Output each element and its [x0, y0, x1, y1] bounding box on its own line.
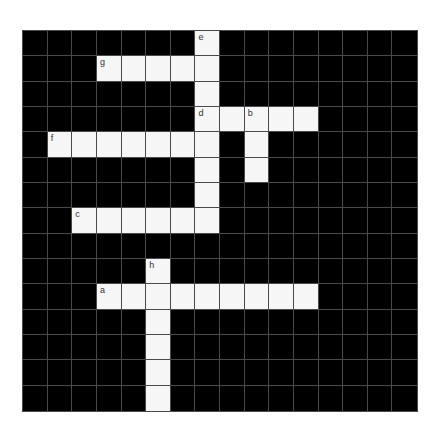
- open-cell[interactable]: [195, 158, 220, 183]
- block-cell: [23, 360, 48, 385]
- open-cell[interactable]: [269, 107, 294, 132]
- open-cell[interactable]: [146, 335, 171, 360]
- open-cell[interactable]: e: [195, 31, 220, 56]
- block-cell: [319, 284, 344, 309]
- block-cell: [392, 234, 417, 259]
- block-cell: [48, 31, 73, 56]
- block-cell: [319, 335, 344, 360]
- open-cell[interactable]: d: [195, 107, 220, 132]
- block-cell: [294, 132, 319, 157]
- block-cell: [48, 310, 73, 335]
- block-cell: [319, 183, 344, 208]
- block-cell: [368, 360, 393, 385]
- block-cell: [72, 107, 97, 132]
- open-cell[interactable]: [171, 56, 196, 81]
- open-cell[interactable]: [146, 386, 171, 411]
- block-cell: [195, 386, 220, 411]
- open-cell[interactable]: [146, 360, 171, 385]
- open-cell[interactable]: [146, 56, 171, 81]
- open-cell[interactable]: [245, 158, 270, 183]
- block-cell: [319, 82, 344, 107]
- open-cell[interactable]: g: [97, 56, 122, 81]
- open-cell[interactable]: [195, 284, 220, 309]
- block-cell: [392, 31, 417, 56]
- open-cell[interactable]: [171, 284, 196, 309]
- block-cell: [146, 82, 171, 107]
- block-cell: [343, 56, 368, 81]
- block-cell: [269, 158, 294, 183]
- open-cell[interactable]: [72, 132, 97, 157]
- block-cell: [245, 310, 270, 335]
- open-cell[interactable]: [122, 56, 147, 81]
- block-cell: [368, 386, 393, 411]
- block-cell: [23, 132, 48, 157]
- block-cell: [343, 310, 368, 335]
- block-cell: [319, 360, 344, 385]
- open-cell[interactable]: [171, 208, 196, 233]
- block-cell: [269, 56, 294, 81]
- open-cell[interactable]: [294, 107, 319, 132]
- open-cell[interactable]: [220, 107, 245, 132]
- open-cell[interactable]: [122, 284, 147, 309]
- open-cell[interactable]: [245, 284, 270, 309]
- open-cell[interactable]: [195, 183, 220, 208]
- clue-label: h: [149, 260, 154, 270]
- open-cell[interactable]: f: [48, 132, 73, 157]
- block-cell: [72, 360, 97, 385]
- block-cell: [269, 132, 294, 157]
- block-cell: [48, 208, 73, 233]
- open-cell[interactable]: [146, 132, 171, 157]
- block-cell: [171, 31, 196, 56]
- block-cell: [23, 107, 48, 132]
- block-cell: [122, 82, 147, 107]
- block-cell: [146, 183, 171, 208]
- block-cell: [220, 132, 245, 157]
- open-cell[interactable]: [122, 208, 147, 233]
- clue-label: b: [248, 108, 253, 118]
- open-cell[interactable]: [294, 284, 319, 309]
- open-cell[interactable]: [146, 310, 171, 335]
- block-cell: [97, 335, 122, 360]
- block-cell: [269, 259, 294, 284]
- open-cell[interactable]: [146, 208, 171, 233]
- block-cell: [23, 31, 48, 56]
- block-cell: [220, 360, 245, 385]
- block-cell: [245, 56, 270, 81]
- block-cell: [343, 31, 368, 56]
- block-cell: [319, 259, 344, 284]
- open-cell[interactable]: [122, 132, 147, 157]
- open-cell[interactable]: [220, 284, 245, 309]
- block-cell: [368, 234, 393, 259]
- open-cell[interactable]: h: [146, 259, 171, 284]
- block-cell: [220, 234, 245, 259]
- block-cell: [171, 183, 196, 208]
- open-cell[interactable]: a: [97, 284, 122, 309]
- open-cell[interactable]: [171, 132, 196, 157]
- block-cell: [343, 386, 368, 411]
- block-cell: [245, 259, 270, 284]
- open-cell[interactable]: [195, 208, 220, 233]
- block-cell: [171, 360, 196, 385]
- clue-label: g: [100, 57, 105, 67]
- open-cell[interactable]: [245, 132, 270, 157]
- open-cell[interactable]: b: [245, 107, 270, 132]
- open-cell[interactable]: [146, 284, 171, 309]
- block-cell: [245, 335, 270, 360]
- block-cell: [195, 259, 220, 284]
- open-cell[interactable]: [97, 208, 122, 233]
- block-cell: [23, 56, 48, 81]
- open-cell[interactable]: [97, 132, 122, 157]
- open-cell[interactable]: [269, 284, 294, 309]
- block-cell: [343, 107, 368, 132]
- block-cell: [146, 107, 171, 132]
- block-cell: [319, 56, 344, 81]
- open-cell[interactable]: [195, 56, 220, 81]
- block-cell: [220, 56, 245, 81]
- open-cell[interactable]: [195, 132, 220, 157]
- open-cell[interactable]: c: [72, 208, 97, 233]
- block-cell: [122, 335, 147, 360]
- block-cell: [122, 386, 147, 411]
- open-cell[interactable]: [195, 82, 220, 107]
- block-cell: [294, 259, 319, 284]
- block-cell: [122, 310, 147, 335]
